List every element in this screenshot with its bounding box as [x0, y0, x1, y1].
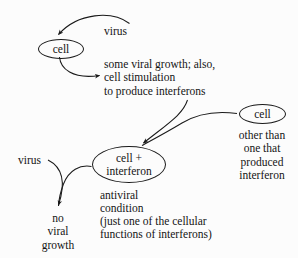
label-antiviral-condition: antiviral condition [100, 189, 143, 216]
arrow-cellifn-to-nogrowth [59, 166, 92, 206]
node-cell-plus-interferon-label: cell + interferon [106, 152, 151, 176]
arrow-cellright-to-cellifn [142, 113, 237, 146]
node-cell-right-label: cell [254, 108, 271, 120]
arrow-stimulation-to-cellifn [144, 100, 188, 143]
node-cell-top[interactable]: cell [38, 39, 84, 59]
label-just-one-of-functions: (just one of the cellular functions of i… [100, 215, 212, 242]
label-other-than-producer: other than one that produced interferon [229, 129, 295, 182]
label-no-viral-growth: no viral growth [31, 212, 85, 252]
label-virus-left: virus [18, 154, 41, 167]
label-virus-top: virus [104, 25, 127, 38]
arrow-cell-to-stimulation [60, 57, 100, 76]
node-cell-top-label: cell [53, 43, 70, 55]
arrow-virusleft-to-nogrowth [48, 160, 62, 205]
node-cell-right[interactable]: cell [239, 104, 286, 124]
node-cell-plus-interferon[interactable]: cell + interferon [92, 146, 166, 183]
diagram-canvas: cell cell cell + interferon virus some v… [0, 0, 298, 258]
label-viral-growth-stimulation: some viral growth; also, cell stimulatio… [104, 58, 215, 98]
